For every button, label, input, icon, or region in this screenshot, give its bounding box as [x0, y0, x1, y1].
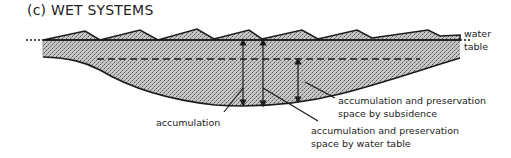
water-table-label-2: table [464, 41, 488, 52]
water-table-space-label-1: accumulation and preservation [311, 125, 459, 136]
water-table-space-label-2: space by water table [311, 138, 411, 149]
dune-crests [43, 29, 460, 40]
water-table-label-1: water [464, 28, 491, 39]
wet-systems-diagram: water table accumulation accumulation an… [0, 0, 511, 158]
subsidence-label-1: accumulation and preservation [338, 95, 486, 106]
subsidence-label-2: space by subsidence [338, 108, 437, 119]
accumulation-label: accumulation [156, 117, 220, 128]
